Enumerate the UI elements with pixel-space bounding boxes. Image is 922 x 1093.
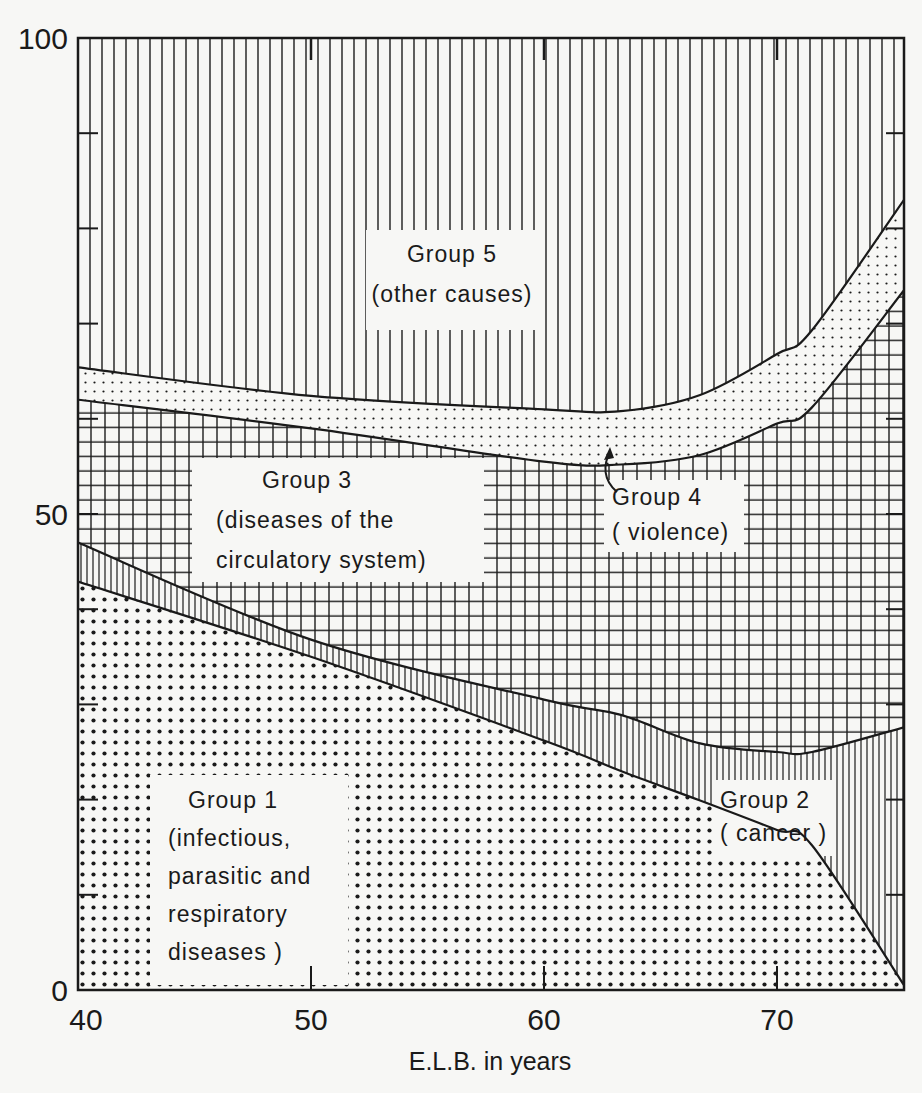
group2-label-line: Group 2 <box>720 787 810 813</box>
x-axis-title: E.L.B. in years <box>409 1047 572 1075</box>
group5-label: Group 5(other causes) <box>366 230 538 330</box>
group1-label-line: diseases ) <box>168 939 283 965</box>
group4-label-line: Group 4 <box>612 484 702 510</box>
y-tick-label: 100 <box>18 22 68 55</box>
x-tick-label: 40 <box>69 1003 102 1036</box>
group4-label-line: ( violence) <box>612 519 729 545</box>
x-tick-label: 60 <box>527 1003 560 1036</box>
group1-label-line: respiratory <box>168 901 288 927</box>
group3-label-line: circulatory system) <box>216 547 427 573</box>
x-tick-label: 50 <box>294 1003 327 1036</box>
group5-label-line: (other causes) <box>371 281 532 307</box>
group2-label-line: ( cancer ) <box>720 820 827 846</box>
group5-label-line: Group 5 <box>407 241 497 267</box>
stacked-area-chart: Group 5(other causes)Group 3(diseases of… <box>0 0 922 1093</box>
y-tick-label: 50 <box>35 498 68 531</box>
x-tick-label: 70 <box>760 1003 793 1036</box>
group4-label: Group 4( violence) <box>604 480 744 552</box>
group3-label-line: (diseases of the <box>216 507 394 533</box>
group1-label-line: Group 1 <box>188 787 278 813</box>
group1-label-line: (infectious, <box>168 825 291 851</box>
group1-label: Group 1(infectious,parasitic andrespirat… <box>150 775 348 985</box>
group1-label-line: parasitic and <box>168 863 311 889</box>
group3-label-line: Group 3 <box>262 467 352 493</box>
group2-label: Group 2( cancer ) <box>716 780 836 856</box>
group3-label: Group 3(diseases of thecirculatory syste… <box>192 458 484 582</box>
y-tick-label: 0 <box>51 974 68 1007</box>
